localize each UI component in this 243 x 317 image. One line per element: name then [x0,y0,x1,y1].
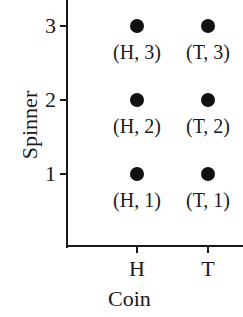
point-t-1 [201,167,215,181]
x-tick-h [136,246,138,253]
point-label-h-2: (H, 2) [97,115,177,137]
point-h-3 [130,19,144,33]
point-label-t-2: (T, 2) [168,115,243,137]
y-tick-label-3: 3 [36,15,56,37]
point-h-1 [130,167,144,181]
x-axis-title: Coin [108,287,208,311]
point-label-h-1: (H, 1) [97,189,177,211]
point-label-t-3: (T, 3) [168,41,243,63]
point-t-2 [201,93,215,107]
y-axis-line [66,0,68,248]
x-tick-label-h: H [122,257,152,281]
x-tick-t [207,246,209,253]
point-label-t-1: (T, 1) [168,189,243,211]
x-axis-line [66,245,243,247]
point-label-h-3: (H, 3) [97,41,177,63]
y-tick-2 [60,99,67,101]
x-tick-label-t: T [193,257,223,281]
point-h-2 [130,93,144,107]
y-axis-title: Spinner [18,75,42,175]
y-tick-1 [60,173,67,175]
point-t-3 [201,19,215,33]
y-tick-3 [60,25,67,27]
